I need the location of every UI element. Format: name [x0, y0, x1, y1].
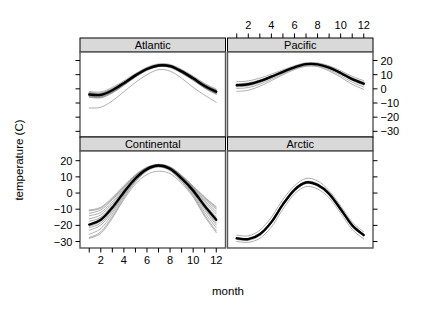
y-axis-tick-label-right: −10 — [381, 97, 400, 109]
y-axis-tick-label-right: −20 — [381, 111, 400, 123]
strip-label-continental: Continental — [125, 138, 181, 150]
panel-continental: Continental — [80, 137, 226, 248]
x-axis-tick-label-top: 12 — [358, 19, 370, 31]
y-axis-tick-label-left: −30 — [54, 236, 73, 248]
x-axis-title: month — [212, 285, 244, 297]
y-axis-tick-label-right: 20 — [381, 55, 393, 67]
panel-frame-arctic — [228, 151, 374, 248]
y-axis-tick-label-left: 20 — [60, 155, 72, 167]
y-axis-tick-label-right: 10 — [381, 69, 393, 81]
x-axis-tick-label-top: 2 — [245, 19, 251, 31]
x-axis-tick-label-bottom: 2 — [98, 254, 104, 266]
y-axis-tick-label-left: 10 — [60, 171, 72, 183]
x-axis-tick-label-bottom: 6 — [144, 254, 150, 266]
x-axis-tick-label-bottom: 8 — [167, 254, 173, 266]
y-axis-tick-label-right: 0 — [381, 83, 387, 95]
y-axis-tick-label-left: 0 — [66, 187, 72, 199]
trellis-plot: AtlanticPacificContinentalArctic 2468101… — [0, 0, 432, 310]
panel-arctic: Arctic — [228, 137, 374, 248]
strip-label-arctic: Arctic — [287, 138, 315, 150]
y-axis-tick-label-left: −20 — [54, 219, 73, 231]
x-axis-tick-label-top: 4 — [268, 19, 274, 31]
figure-root: AtlanticPacificContinentalArctic 2468101… — [0, 0, 432, 310]
strip-label-atlantic: Atlantic — [135, 39, 172, 51]
x-axis-tick-label-top: 6 — [291, 19, 297, 31]
y-axis-title: temperature (C) — [13, 119, 25, 200]
x-axis-tick-label-top: 8 — [315, 19, 321, 31]
strip-label-pacific: Pacific — [284, 39, 317, 51]
x-axis-tick-label-top: 10 — [335, 19, 347, 31]
y-axis-tick-label-left: −10 — [54, 203, 73, 215]
x-axis-tick-label-bottom: 12 — [210, 254, 222, 266]
panel-pacific: Pacific — [228, 38, 374, 137]
panel-atlantic: Atlantic — [80, 38, 226, 137]
y-axis-tick-label-right: −30 — [381, 125, 400, 137]
x-axis-tick-label-bottom: 10 — [187, 254, 199, 266]
x-axis-tick-label-bottom: 4 — [121, 254, 127, 266]
